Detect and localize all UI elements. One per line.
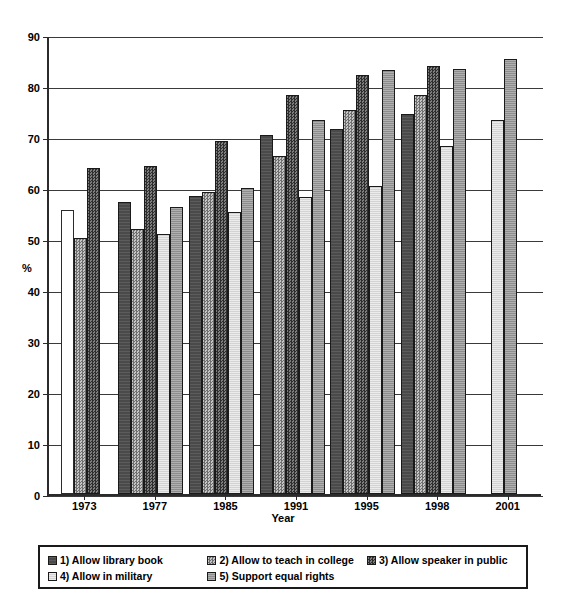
light-swatch-icon (48, 572, 57, 581)
y-axis-tick-label: 90 (28, 31, 40, 43)
bar-1998-s1 (401, 114, 414, 494)
y-axis-tick (43, 190, 49, 191)
y-axis-title: % (22, 262, 32, 274)
bar-cluster (330, 35, 395, 494)
y-axis-tick-label: 60 (28, 184, 40, 196)
bar-1995-s5 (382, 70, 395, 494)
y-axis-tick-label: 70 (28, 133, 40, 145)
bar-cluster (189, 35, 254, 494)
bar-1977-s2 (131, 229, 144, 494)
y-axis-tick (43, 496, 49, 497)
y-axis-tick (43, 88, 49, 89)
bar-group-2001 (491, 35, 517, 494)
bar-1998-s3 (427, 66, 440, 494)
bar-chart: 0102030405060708090197319771985199119951… (0, 0, 566, 530)
bar-1991-s2 (273, 156, 286, 494)
legend-row-2: 4) Allow in military 5) Support equal ri… (48, 568, 518, 584)
bar-2001-s4 (491, 120, 504, 494)
y-axis-tick-label: 20 (28, 388, 40, 400)
medium-checker-swatch-icon (207, 556, 216, 565)
medium-gray-swatch-icon (207, 572, 216, 581)
bar-1973-s2 (74, 238, 87, 494)
bar-1991-s1 (260, 135, 273, 494)
bar-1973-s1 (61, 210, 74, 494)
y-axis-tick-label: 10 (28, 439, 40, 451)
y-axis-tick (43, 343, 49, 344)
bar-1985-s1 (189, 196, 202, 494)
bar-1998-s5 (453, 69, 466, 494)
bar-group-1985 (189, 35, 254, 494)
legend-item-2: 2) Allow to teach in college (207, 554, 366, 566)
dark-solid-swatch-icon (48, 556, 57, 565)
bar-1998-s2 (414, 95, 427, 494)
y-axis-tick (43, 445, 49, 446)
x-axis-tick-label: 1973 (72, 500, 96, 512)
legend-row-1: 1) Allow library book 2) Allow to teach … (48, 552, 518, 568)
x-axis-tick-label: 1995 (354, 500, 378, 512)
legend-label-4: 4) Allow in military (60, 570, 152, 582)
bar-1977-s4 (157, 234, 170, 494)
y-axis-tick-label: 80 (28, 82, 40, 94)
bar-1985-s4 (228, 212, 241, 494)
legend-label-3: 3) Allow speaker in public (379, 554, 508, 566)
y-axis-tick-label: 50 (28, 235, 40, 247)
y-axis-tick-label: 30 (28, 337, 40, 349)
x-axis-tick-label: 1985 (213, 500, 237, 512)
y-axis-tick-label: 40 (28, 286, 40, 298)
y-axis-tick (43, 292, 49, 293)
y-axis-tick-label: 0 (34, 490, 40, 502)
legend-item-4: 4) Allow in military (48, 570, 207, 582)
legend-item-3: 3) Allow speaker in public (367, 554, 518, 566)
bar-1985-s2 (202, 192, 215, 494)
legend-label-2: 2) Allow to teach in college (219, 554, 353, 566)
bar-group-1991 (260, 35, 325, 494)
bar-cluster (61, 35, 100, 494)
bar-1995-s3 (356, 75, 369, 494)
bar-cluster (401, 35, 466, 494)
y-axis-tick (43, 394, 49, 395)
x-axis-title: Year (0, 512, 566, 524)
bar-1977-s1 (118, 202, 131, 494)
bar-cluster (260, 35, 325, 494)
legend-label-5: 5) Support equal rights (219, 570, 334, 582)
bar-cluster (491, 35, 517, 494)
legend-label-1: 1) Allow library book (60, 554, 163, 566)
bar-1985-s5 (241, 188, 254, 495)
bar-1991-s5 (312, 120, 325, 494)
bar-1977-s5 (170, 207, 183, 494)
bar-group-1977 (118, 35, 183, 494)
x-axis-tick-label: 1998 (425, 500, 449, 512)
y-axis-tick (43, 139, 49, 140)
bar-group-1998 (401, 35, 466, 494)
legend-item-5: 5) Support equal rights (207, 570, 366, 582)
x-axis-tick-label: 1977 (143, 500, 167, 512)
x-axis-tick-label: 2001 (495, 500, 519, 512)
y-axis-tick (43, 241, 49, 242)
dark-checker-swatch-icon (367, 556, 376, 565)
bar-group-1973 (61, 35, 100, 494)
bar-1995-s1 (330, 129, 343, 494)
legend-item-1: 1) Allow library book (48, 554, 207, 566)
chart-legend: 1) Allow library book 2) Allow to teach … (38, 545, 528, 589)
bar-1998-s4 (440, 146, 453, 494)
bar-1977-s3 (144, 166, 157, 494)
bar-cluster (118, 35, 183, 494)
bar-1973-s3 (87, 168, 100, 494)
y-axis-tick (43, 37, 49, 38)
bar-1991-s3 (286, 95, 299, 494)
plot-area: 0102030405060708090197319771985199119951… (47, 37, 541, 496)
x-axis-tick-label: 1991 (284, 500, 308, 512)
bar-1995-s2 (343, 110, 356, 494)
bar-1985-s3 (215, 141, 228, 494)
bar-1991-s4 (299, 197, 312, 494)
bar-group-1995 (330, 35, 395, 494)
bar-2001-s5 (504, 59, 517, 494)
bar-1995-s4 (369, 186, 382, 494)
